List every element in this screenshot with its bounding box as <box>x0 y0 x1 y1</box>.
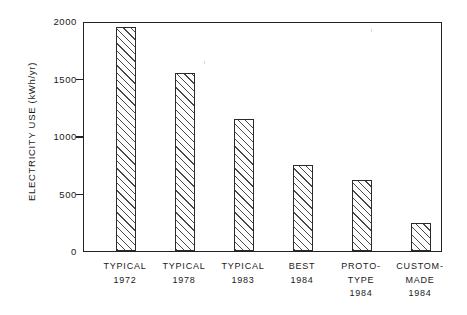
y-tick-label-0: 0 <box>71 247 83 257</box>
scan-speckle <box>371 29 372 32</box>
x-tick-line: 1984 <box>383 287 457 301</box>
y-tick-mark-1500 <box>76 79 83 81</box>
bar-typical-1978 <box>175 73 195 251</box>
bar-best-1984 <box>293 165 313 251</box>
chart-figure: ELECTRICITY USE (kWh/yr) 2000 1500 1000 … <box>0 0 467 315</box>
scan-speckle <box>204 61 205 64</box>
y-tick-mark-1000 <box>76 136 83 138</box>
x-tick-custom-made-1984: CUSTOM- MADE 1984 <box>383 260 457 301</box>
bar-prototype-1984 <box>352 180 372 251</box>
x-tick-line: CUSTOM- <box>383 260 457 274</box>
y-tick-label-2000: 2000 <box>53 17 83 27</box>
x-tick-line: MADE <box>383 274 457 288</box>
bar-typical-1972 <box>116 27 136 251</box>
y-axis-label: ELECTRICITY USE (kWh/yr) <box>26 32 37 232</box>
bar-custom-made-1984 <box>411 223 431 251</box>
bar-typical-1983 <box>234 119 254 251</box>
plot-area <box>83 22 442 252</box>
y-tick-mark-500 <box>76 194 83 196</box>
